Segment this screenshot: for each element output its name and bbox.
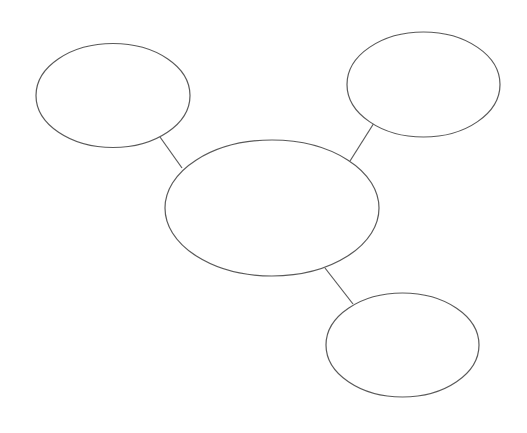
connector-center-to-bottom-right [325,268,353,304]
bubble-diagram [0,0,527,433]
connector-top-left-to-center [160,137,182,168]
node-top-right-shape[interactable] [347,32,500,137]
node-top-left[interactable] [36,44,190,148]
node-top-right[interactable] [347,32,500,137]
node-bottom-right[interactable] [326,293,479,397]
node-bottom-right-shape[interactable] [326,293,479,397]
connector-top-right-to-center [350,123,374,161]
node-top-left-shape[interactable] [36,44,190,148]
node-center-shape[interactable] [165,140,379,276]
node-center[interactable] [165,140,379,276]
nodes [36,32,500,397]
